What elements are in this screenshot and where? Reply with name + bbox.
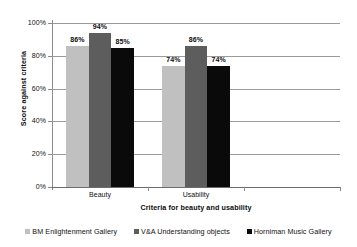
bar-value-label: 86% [181,36,211,43]
bar-chart: Score against criteria 0%20%40%60%80%100… [0,0,357,247]
bar [111,48,134,187]
y-axis-tick-label: 100% [6,19,46,26]
x-axis-tick [148,187,149,191]
bar-value-label: 85% [108,38,138,45]
bar-value-label: 74% [204,56,234,63]
gridline [52,187,340,188]
bar-value-label: 74% [158,56,188,63]
y-axis-tick-label: 80% [6,52,46,59]
legend-label: BM Enlightenment Gallery [32,227,117,236]
legend-item[interactable]: V&A Understanding objects [134,227,230,236]
x-axis-title: Criteria for beauty and usability [52,203,340,212]
bar [89,33,112,187]
plot-area [52,23,340,187]
bar [207,66,230,187]
legend-swatch-icon [134,229,139,234]
legend-label: V&A Understanding objects [141,227,230,236]
y-axis-tick-label: 40% [6,117,46,124]
legend-item[interactable]: BM Enlightenment Gallery [25,227,117,236]
bar [66,46,89,187]
legend-label: Horniman Music Gallery [254,227,332,236]
bar-value-label: 94% [85,23,115,30]
bar [162,66,185,187]
bar [185,46,208,187]
legend-item[interactable]: Horniman Music Gallery [247,227,332,236]
y-axis-tick-label: 20% [6,150,46,157]
bar-value-label: 86% [62,36,92,43]
x-axis-tick [244,187,245,191]
legend-swatch-icon [25,229,30,234]
chart-legend: BM Enlightenment GalleryV&A Understandin… [0,227,357,236]
x-axis-tick [340,187,341,191]
y-axis-tick-label: 60% [6,85,46,92]
x-axis-category-label: Beauty [60,191,140,198]
legend-swatch-icon [247,229,252,234]
y-axis-tick-label: 0% [6,183,46,190]
x-axis-category-label: Usability [156,191,236,198]
